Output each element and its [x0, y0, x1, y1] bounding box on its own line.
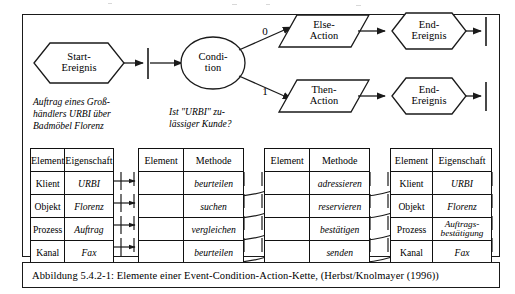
table-row: vergleichen	[139, 218, 244, 241]
table-row: ProzessAuftrags-bestätigung	[391, 218, 492, 241]
table-row: KlientURBI	[31, 172, 114, 195]
table-header-row: ElementEigenschaft	[31, 149, 114, 172]
cell-value: vergleichen	[184, 218, 244, 241]
cell-value: beurteilen	[184, 172, 244, 195]
column-header: Methode	[310, 149, 370, 172]
cell-element: Objekt	[391, 195, 433, 218]
cell-element: Objekt	[31, 195, 65, 218]
cell-element	[265, 218, 310, 241]
start-event-note-line1: Auftrag eines Groß-	[33, 96, 163, 108]
table-row: KanalFax	[31, 241, 114, 264]
end-event-bottom-label: End- Ereignis	[392, 85, 466, 107]
column-header: Element	[31, 149, 65, 172]
cell-value: Fax	[65, 241, 113, 264]
cell-element	[139, 172, 184, 195]
end-event-top-label-line2: Ereignis	[392, 31, 466, 42]
start-event-label-line2: Ereignis	[34, 63, 124, 74]
table-element-methode-1: ElementMethodebeurteilensuchenvergleiche…	[138, 148, 244, 264]
cell-value: URBI	[65, 172, 113, 195]
cell-element: Prozess	[31, 218, 65, 241]
cell-value: URBI	[433, 172, 492, 195]
cell-element	[139, 218, 184, 241]
else-action-label: Else- Action	[290, 20, 358, 42]
start-event-note: Auftrag eines Groß- händlers URBI über B…	[33, 96, 163, 132]
condition-note-line2: lässiger Kunde?	[169, 118, 289, 130]
figure-root: Start- Ereignis Condi- tion Else- Action…	[0, 0, 515, 294]
cell-element: Kanal	[31, 241, 65, 264]
cell-element	[265, 172, 310, 195]
table-header-row: ElementEigenschaft	[391, 149, 492, 172]
table-row: beurteilen	[139, 172, 244, 195]
condition-note-line1: Ist "URBI" zu-	[169, 106, 289, 118]
table-row: bestätigen	[265, 218, 370, 241]
cell-element	[139, 241, 184, 264]
column-header: Element	[391, 149, 433, 172]
branch-label-then: 1	[259, 86, 271, 97]
table-element-eigenschaft-1: ElementEigenschaftKlientURBIObjektFloren…	[30, 148, 114, 264]
table-row: ObjektFlorenz	[391, 195, 492, 218]
scan-artifact	[266, 4, 270, 5]
cell-value: Florenz	[65, 195, 113, 218]
column-header: Element	[265, 149, 310, 172]
column-header: Element	[139, 149, 184, 172]
table-row: beurteilen	[139, 241, 244, 264]
column-header: Methode	[184, 149, 244, 172]
table-row: senden	[265, 241, 370, 264]
start-event-note-line3: Badmöbel Florenz	[33, 120, 163, 132]
condition-label: Condi- tion	[181, 52, 245, 74]
cell-element: Klient	[391, 172, 433, 195]
table-header-row: ElementMethode	[265, 149, 370, 172]
cell-element	[139, 195, 184, 218]
cell-element	[265, 241, 310, 264]
cell-value: suchen	[184, 195, 244, 218]
cell-value: senden	[310, 241, 370, 264]
cell-value: beurteilen	[184, 241, 244, 264]
cell-value: Fax	[433, 241, 492, 264]
table-row: KanalFax	[391, 241, 492, 264]
cell-value: adressieren	[310, 172, 370, 195]
start-event-label: Start- Ereignis	[34, 52, 124, 74]
scan-artifact	[232, 4, 237, 5]
table-element-eigenschaft-2: ElementEigenschaftKlientURBIObjektFloren…	[390, 148, 492, 264]
scan-artifact	[108, 3, 112, 4]
cell-element: Prozess	[391, 218, 433, 241]
cell-value: bestätigen	[310, 218, 370, 241]
table-row: ProzessAuftrag	[31, 218, 114, 241]
branch-label-else: 0	[259, 26, 271, 37]
scan-artifact	[356, 5, 361, 6]
end-event-bottom-label-line2: Ereignis	[392, 96, 466, 107]
condition-note: Ist "URBI" zu- lässiger Kunde?	[169, 106, 289, 130]
condition-label-line2: tion	[181, 63, 245, 74]
figure-caption-text: Abbildung 5.4.2-1: Elemente einer Event-…	[23, 270, 439, 281]
table-row: ObjektFlorenz	[31, 195, 114, 218]
table-row: adressieren	[265, 172, 370, 195]
cell-element	[265, 195, 310, 218]
cell-element: Klient	[31, 172, 65, 195]
cell-element: Kanal	[391, 241, 433, 264]
table-row: KlientURBI	[391, 172, 492, 195]
cell-value: Florenz	[433, 195, 492, 218]
table-row: suchen	[139, 195, 244, 218]
figure-caption-box: Abbildung 5.4.2-1: Elemente einer Event-…	[22, 262, 500, 288]
start-event-note-line2: händlers URBI über	[33, 108, 163, 120]
end-event-top-label: End- Ereignis	[392, 20, 466, 42]
cell-value: Auftrag	[65, 218, 113, 241]
cell-value: reservieren	[310, 195, 370, 218]
table-element-methode-2: ElementMethodeadressierenreservierenbest…	[264, 148, 370, 264]
cell-value: Auftrags-bestätigung	[433, 218, 492, 241]
column-header: Eigenschaft	[433, 149, 492, 172]
column-header: Eigenschaft	[65, 149, 113, 172]
table-header-row: ElementMethode	[139, 149, 244, 172]
then-action-label: Then- Action	[290, 85, 358, 107]
then-action-label-line2: Action	[290, 96, 358, 107]
else-action-label-line2: Action	[290, 31, 358, 42]
table-row: reservieren	[265, 195, 370, 218]
